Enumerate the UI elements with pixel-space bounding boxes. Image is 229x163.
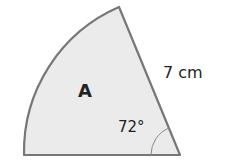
- sector-label: A: [78, 80, 92, 101]
- sector-shape: [24, 7, 180, 155]
- angle-label: 72°: [118, 118, 145, 136]
- radius-label: 7 cm: [163, 63, 203, 82]
